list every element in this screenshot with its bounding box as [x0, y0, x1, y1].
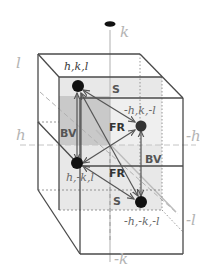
point-hkl	[72, 80, 84, 92]
op-fr-bottom: FR	[109, 167, 126, 180]
axis-label-neg-k: -k	[114, 250, 128, 268]
label-mh-k-ml: -h,k,-l	[124, 104, 156, 117]
axis-label-l: l	[16, 54, 21, 72]
op-s-top: S	[112, 83, 120, 96]
op-bv-left: BV	[60, 127, 77, 140]
label-h-mk-l: h,-k,l	[66, 171, 94, 184]
point-mh-mk-ml	[135, 196, 147, 208]
point-mh-k-ml	[136, 121, 147, 132]
op-fr-top: FR	[109, 121, 126, 134]
twofold-axis-icon	[105, 21, 116, 27]
symmetry-cube-diagram: k -k h -h l -l h,k,l -h,k,-l h,-k,l -h,-…	[0, 0, 210, 279]
axis-label-k: k	[120, 23, 129, 41]
op-bv-right: BV	[145, 153, 162, 166]
label-hkl: h,k,l	[64, 60, 89, 73]
op-s-bottom: S	[113, 195, 121, 208]
label-mh-mk-ml: -h,-k,-l	[124, 215, 160, 228]
point-h-mk-l	[71, 157, 83, 169]
axis-label-neg-h: -h	[186, 127, 201, 145]
axis-label-h: h	[16, 126, 26, 144]
axis-label-neg-l: -l	[186, 211, 196, 229]
